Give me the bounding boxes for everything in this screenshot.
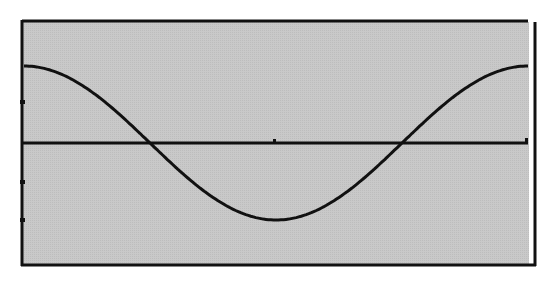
y-tick <box>20 100 25 104</box>
y-tick <box>20 218 25 222</box>
zero-line-end-tick <box>525 138 528 143</box>
cosine-chart <box>0 0 546 285</box>
y-tick <box>20 180 25 184</box>
zero-line-center-tick <box>273 139 276 143</box>
